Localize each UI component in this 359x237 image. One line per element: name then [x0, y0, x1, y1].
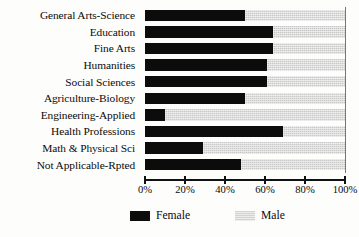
x-axis-tick: [304, 176, 306, 184]
category-label: Not Applicable-Rpted: [0, 158, 140, 172]
bar-segment-male: [273, 26, 345, 38]
bar-row: [145, 43, 345, 55]
category-label: Social Sciences: [0, 75, 140, 89]
plot-area: [145, 7, 346, 173]
category-label: Math & Physical Sci: [0, 141, 140, 155]
bar-row: [145, 10, 345, 22]
bar-segment-male: [241, 159, 345, 171]
bar-row: [145, 26, 345, 38]
x-axis-tick-label: 20%: [175, 184, 194, 195]
bar-segment-female: [145, 10, 245, 22]
legend-item-male: Male: [235, 209, 285, 222]
x-axis-tick: [224, 176, 226, 184]
x-axis-tick-label: 60%: [255, 184, 274, 195]
legend-label-male: Male: [261, 209, 285, 222]
x-axis-tick: [144, 176, 146, 184]
category-axis-labels: General Arts-Science Education Fine Arts…: [0, 8, 140, 172]
bar-segment-female: [145, 109, 165, 121]
bar-row: [145, 93, 345, 105]
x-axis-tick: [264, 176, 266, 184]
x-axis-tick-label: 0%: [138, 184, 152, 195]
category-label: Engineering-Applied: [0, 108, 140, 122]
x-axis-tick: [344, 176, 346, 184]
x-axis-tick-labels: 0%20%40%60%80%100%: [130, 184, 359, 200]
legend-swatch-male-icon: [235, 211, 255, 221]
category-label: General Arts-Science: [0, 8, 140, 22]
bar-segment-female: [145, 59, 267, 71]
x-axis-tick-label: 40%: [215, 184, 234, 195]
bar-segment-male: [273, 43, 345, 55]
bar-row: [145, 109, 345, 121]
x-axis-tick-label: 80%: [295, 184, 314, 195]
category-label: Fine Arts: [0, 41, 140, 55]
bar-segment-male: [245, 10, 345, 22]
bar-row: [145, 76, 345, 88]
x-axis-tick-label: 100%: [333, 184, 358, 195]
bar-segment-male: [203, 142, 345, 154]
category-label: Health Professions: [0, 124, 140, 138]
bar-segment-female: [145, 93, 245, 105]
bar-segment-female: [145, 76, 267, 88]
bar-segment-female: [145, 126, 283, 138]
bar-segment-male: [267, 76, 345, 88]
legend-item-female: Female: [130, 209, 190, 222]
bar-segment-female: [145, 43, 273, 55]
bar-segment-male: [283, 126, 345, 138]
x-axis-tick: [184, 176, 186, 184]
bar-row: [145, 59, 345, 71]
legend-label-female: Female: [156, 209, 190, 222]
bar-segment-female: [145, 159, 241, 171]
category-label: Education: [0, 25, 140, 39]
bar-row: [145, 126, 345, 138]
category-label: Humanities: [0, 58, 140, 72]
chart-legend: Female Male: [130, 209, 310, 229]
category-label: Agriculture-Biology: [0, 91, 140, 105]
bar-row: [145, 159, 345, 171]
chart-container: General Arts-Science Education Fine Arts…: [0, 0, 359, 237]
legend-swatch-female-icon: [130, 211, 150, 221]
bar-segment-male: [245, 93, 345, 105]
x-axis-line: [145, 179, 345, 181]
bar-segment-male: [267, 59, 345, 71]
bar-row: [145, 142, 345, 154]
bar-segment-female: [145, 142, 203, 154]
bar-segment-male: [165, 109, 345, 121]
bar-segment-female: [145, 26, 273, 38]
